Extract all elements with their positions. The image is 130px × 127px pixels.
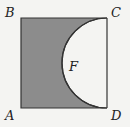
- shaded-region: [21, 18, 107, 108]
- vertex-label-d: D: [110, 108, 122, 123]
- region-label-f: F: [68, 59, 79, 74]
- vertex-label-a: A: [4, 108, 14, 123]
- vertex-label-c: C: [111, 5, 121, 20]
- geometry-diagram: B C A D F: [0, 0, 130, 127]
- vertex-label-b: B: [4, 5, 15, 20]
